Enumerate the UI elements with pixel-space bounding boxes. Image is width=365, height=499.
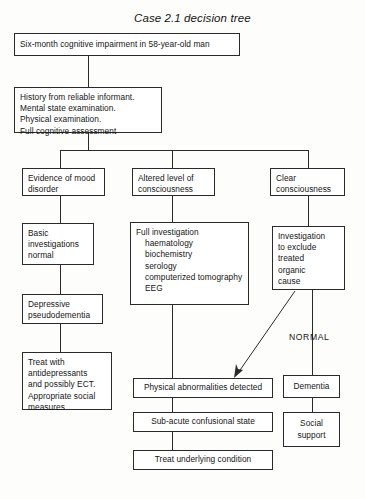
- node-full-line-1: Full investigation: [136, 227, 243, 238]
- node-pseudodementia-line-2: pseudodementia: [28, 310, 97, 321]
- node-exclude-line-5: cause: [278, 276, 339, 287]
- node-treat-underlying-condition[interactable]: Treat underlying condition: [133, 450, 273, 470]
- node-assessment[interactable]: History from reliable informant. Mental …: [14, 87, 162, 133]
- node-physical-text: Physical abnormalities detected: [144, 382, 262, 393]
- decision-tree-figure: Case 2.1 decision tree Six-month cogniti…: [0, 0, 365, 499]
- edge-presentation-to-assessment: [88, 56, 89, 87]
- node-clear-consciousness[interactable]: Clear consciousness: [270, 168, 345, 196]
- node-altered-line-1: Altered level of: [138, 173, 209, 184]
- node-assessment-line-3: Physical examination.: [20, 114, 156, 125]
- node-assessment-line-2: Mental state examination.: [20, 103, 156, 114]
- edge-branch-stem-altered: [172, 150, 173, 168]
- node-full-line-3: biochemistry: [136, 249, 243, 260]
- edge-basic-to-pseudodementia: [60, 265, 61, 294]
- node-altered-level-of-consciousness[interactable]: Altered level of consciousness: [132, 168, 215, 196]
- edge-physical-to-subacute: [172, 396, 173, 412]
- node-treat-depression-line-5: measures: [28, 402, 106, 413]
- node-social-support-line-2: support: [297, 430, 325, 441]
- node-physical-abnormalities-detected[interactable]: Physical abnormalities detected: [133, 378, 273, 398]
- node-treat-with-antidepressants[interactable]: Treat with antidepressants and possibly …: [22, 352, 112, 410]
- edge-pseudodementia-to-treat: [60, 324, 61, 352]
- node-depressive-pseudodementia[interactable]: Depressive pseudodementia: [22, 294, 103, 324]
- node-full-line-6: EEG: [136, 283, 243, 294]
- edge-branch-stem-clear: [308, 150, 309, 168]
- node-exclude-line-1: Investigation: [278, 231, 339, 242]
- node-dementia-text: Dementia: [294, 381, 330, 392]
- node-treat-depression-line-4: Appropriate social: [28, 391, 106, 402]
- node-treat-underlying-text: Treat underlying condition: [155, 454, 251, 465]
- node-social-support[interactable]: Social support: [283, 412, 340, 447]
- node-pseudodementia-line-1: Depressive: [28, 299, 97, 310]
- node-basic-investigations-normal[interactable]: Basic investigations normal: [22, 223, 94, 265]
- node-presentation[interactable]: Six-month cognitive impairment in 58-yea…: [14, 33, 240, 56]
- node-basic-line-1: Basic: [28, 228, 88, 239]
- node-mood-line-2: disorder: [28, 184, 99, 195]
- node-full-line-5: computerized tomography: [136, 272, 243, 283]
- node-full-investigation[interactable]: Full investigation haematology biochemis…: [130, 222, 249, 305]
- node-clear-line-1: Clear: [276, 173, 339, 184]
- node-exclude-line-2: to exclude: [278, 242, 339, 253]
- node-treat-depression-line-3: and possibly ECT.: [28, 379, 106, 390]
- node-clear-line-2: consciousness: [276, 184, 339, 195]
- node-basic-line-3: normal: [28, 250, 88, 261]
- node-sub-acute-confusional-state[interactable]: Sub-acute confusional state: [133, 412, 273, 432]
- edge-branch-bus: [60, 150, 309, 151]
- edge-subacute-to-treat-underlying: [172, 432, 173, 450]
- edge-mood-to-basic: [60, 196, 61, 223]
- node-assessment-line-4: Full cognitive assessment: [20, 126, 156, 137]
- node-full-line-2: haematology: [136, 238, 243, 249]
- node-subacute-text: Sub-acute confusional state: [151, 416, 255, 427]
- figure-title: Case 2.1 decision tree: [134, 12, 251, 24]
- node-full-line-4: serology: [136, 261, 243, 272]
- node-basic-line-2: investigations: [28, 239, 88, 250]
- label-normal-branch: NORMAL: [289, 332, 329, 342]
- node-treat-depression-line-2: antidepressants: [28, 368, 106, 379]
- node-investigation-to-exclude-treated-organic-cause[interactable]: Investigation to exclude treated organic…: [272, 226, 345, 290]
- node-social-support-line-1: Social: [300, 418, 323, 429]
- node-treat-depression-line-1: Treat with: [28, 357, 106, 368]
- node-presentation-text: Six-month cognitive impairment in 58-yea…: [20, 39, 210, 50]
- node-mood-line-1: Evidence of mood: [28, 173, 99, 184]
- edge-full-to-physical: [172, 305, 173, 378]
- node-assessment-line-1: History from reliable informant.: [20, 92, 156, 103]
- edge-dementia-to-social: [312, 398, 313, 412]
- node-dementia[interactable]: Dementia: [283, 375, 340, 398]
- node-evidence-of-mood-disorder[interactable]: Evidence of mood disorder: [22, 168, 105, 196]
- node-exclude-line-4: organic: [278, 265, 339, 276]
- edge-branch-stem-mood: [60, 150, 61, 168]
- edge-clear-to-exclude: [308, 196, 309, 226]
- node-exclude-line-3: treated: [278, 253, 339, 264]
- edge-altered-to-full: [172, 196, 173, 222]
- node-altered-line-2: consciousness: [138, 184, 209, 195]
